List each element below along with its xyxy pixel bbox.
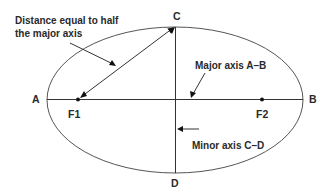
label-f1: F1 bbox=[68, 108, 80, 120]
major-axis-pointer-line bbox=[193, 73, 205, 94]
label-a: A bbox=[32, 93, 40, 105]
minor-axis-pointer-arrowhead-icon bbox=[177, 126, 183, 132]
half-major-annotation-line1: Distance equal to half bbox=[15, 15, 119, 26]
minor-axis-annotation: Minor axis C–D bbox=[192, 140, 264, 151]
label-f2: F2 bbox=[256, 108, 268, 120]
ellipse-diagram: A B C D F1 F2 Distance equal to half the… bbox=[0, 0, 333, 196]
f1-arrowhead-icon bbox=[80, 91, 87, 98]
label-b: B bbox=[309, 93, 317, 105]
focus-f1-dot bbox=[76, 98, 80, 102]
major-axis-pointer-arrowhead-icon bbox=[190, 91, 196, 98]
major-axis-annotation: Major axis A–B bbox=[195, 60, 266, 71]
label-c: C bbox=[173, 10, 181, 22]
half-major-annotation-line2: the major axis bbox=[15, 28, 83, 39]
focus-f2-dot bbox=[260, 98, 264, 102]
label-d: D bbox=[171, 177, 179, 189]
c-to-f1-distance-line bbox=[81, 28, 173, 97]
